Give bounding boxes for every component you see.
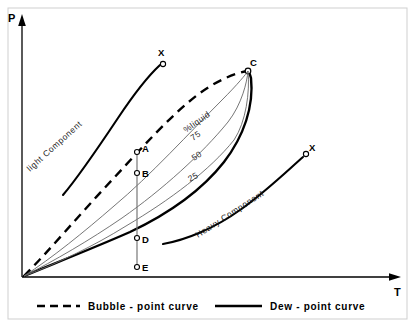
point-a-marker: [135, 150, 140, 155]
point-b-label: B: [142, 168, 149, 179]
critical-point-label: C: [250, 57, 257, 68]
legend-bubble-label: Bubble - point curve: [88, 301, 199, 312]
figure-background: [0, 0, 415, 327]
heavy-component-critical-label: X: [309, 142, 316, 153]
light-component-critical-marker: [160, 61, 165, 66]
point-a-label: A: [142, 143, 149, 154]
x-axis-label: T: [394, 286, 401, 298]
light-component-critical-label: X: [158, 47, 165, 58]
phase-diagram-canvas: P T X light Component X Heavy Component …: [0, 0, 415, 327]
phase-diagram-figure: P T X light Component X Heavy Component …: [0, 0, 415, 327]
legend-dew-label: Dew - point curve: [270, 301, 365, 312]
point-e-label: E: [142, 262, 148, 273]
point-d-label: D: [142, 234, 149, 245]
point-d-marker: [135, 236, 140, 241]
point-b-marker: [135, 171, 140, 176]
y-axis-label: P: [8, 12, 15, 24]
point-e-marker: [135, 265, 140, 270]
heavy-component-critical-marker: [303, 151, 308, 156]
